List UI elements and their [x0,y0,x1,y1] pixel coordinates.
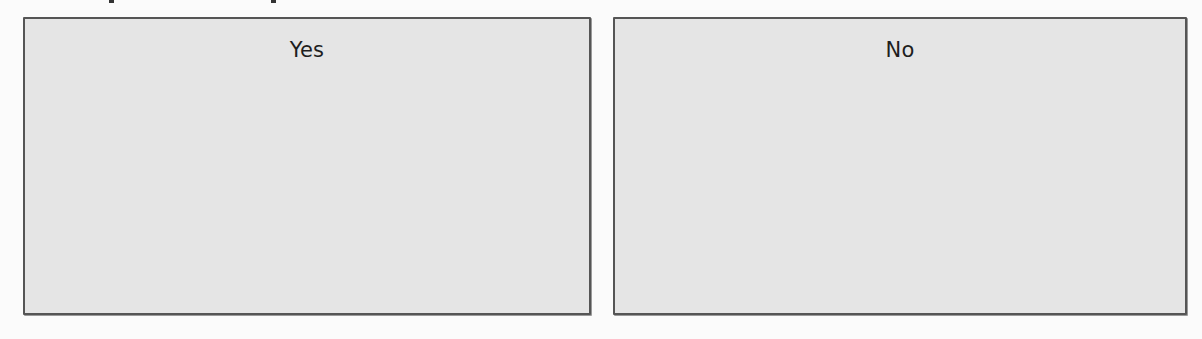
no-option-label: No [615,38,1185,62]
choice-screen: Yes No [0,0,1202,339]
yes-option-card[interactable]: Yes [23,17,591,315]
clipped-heading-fragment [109,0,114,3]
clipped-heading-fragment [271,0,276,3]
yes-option-label: Yes [25,38,589,62]
no-option-card[interactable]: No [613,17,1187,315]
